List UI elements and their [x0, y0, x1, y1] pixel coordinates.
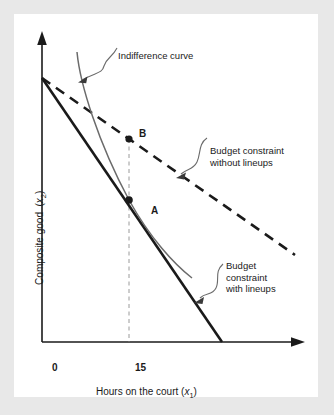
- y-axis-title-var: x: [34, 198, 45, 203]
- point-label-a: A: [151, 205, 158, 217]
- y-axis-title-close: ): [34, 191, 45, 194]
- data-point-a: [125, 196, 133, 204]
- y-axis-title: Composite good (x2): [34, 163, 50, 313]
- x-axis-title-close: ): [194, 386, 197, 397]
- x-tick-label-0: 0: [52, 362, 58, 374]
- budget-line-with-lineups: [42, 78, 222, 342]
- leader-budget-with-lineups: [194, 264, 223, 304]
- x-tick-label-15: 15: [135, 362, 146, 374]
- x-axis: [42, 337, 305, 347]
- data-point-b: [125, 135, 132, 142]
- chart-plot-area: [14, 14, 318, 397]
- annotation-budget-with-line3: with lineups: [226, 283, 276, 294]
- y-axis-title-main: Composite good (: [34, 203, 45, 285]
- annotation-budget-with-line1: Budget: [226, 260, 256, 271]
- annotation-budget-with-line2: constraint: [226, 272, 267, 283]
- annotation-budget-constraint-without-lineups: Budget constraintwithout lineups: [210, 145, 284, 168]
- point-label-b: B: [139, 128, 146, 140]
- figure-root: Indifference curve Budget constraintwith…: [0, 0, 334, 415]
- annotation-indifference-curve: Indifference curve: [118, 50, 193, 62]
- annotation-budget-without-line1: Budget constraint: [210, 145, 284, 156]
- x-axis-title-main: Hours on the court (: [96, 386, 184, 397]
- annotation-budget-without-line2: without lineups: [210, 157, 273, 168]
- x-axis-title: Hours on the court (x1): [96, 386, 197, 402]
- leader-indifference-curve: [78, 48, 117, 83]
- y-axis-title-sub: 2: [39, 194, 48, 198]
- annotation-budget-constraint-with-lineups: Budgetconstraintwith lineups: [226, 260, 276, 295]
- leader-budget-without-lineups: [176, 138, 207, 180]
- indifference-curve: [77, 52, 192, 278]
- chart-panel: Indifference curve Budget constraintwith…: [14, 14, 318, 397]
